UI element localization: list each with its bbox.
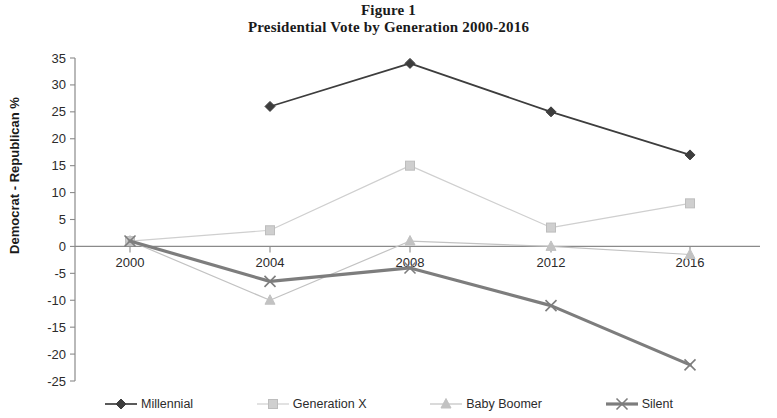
y-tick-label: 25 [52,104,66,119]
x-tick-label: 2012 [537,255,566,270]
series-line [270,63,690,155]
y-tick-label: 0 [59,239,66,254]
marker-square [547,223,556,232]
y-tick-label: 15 [52,158,66,173]
legend-item-silent[interactable]: Silent [605,397,673,411]
y-tick-label: -25 [47,374,66,389]
legend-label: Generation X [293,397,367,411]
legend-marker-triangle-icon [429,397,463,411]
chart-figure: Figure 1 Presidential Vote by Generation… [0,0,777,418]
marker-square [406,161,415,170]
series-generation-x [126,161,695,245]
marker-square [686,199,695,208]
x-tick-label: 2000 [116,255,145,270]
y-tick-label: -10 [47,293,66,308]
y-tick-label: 10 [52,185,66,200]
y-tick-label: -20 [47,347,66,362]
legend-item-generation-x[interactable]: Generation X [256,397,367,411]
marker-diamond [546,107,556,117]
marker-triangle [405,236,415,246]
y-tick-label: 30 [52,77,66,92]
marker-triangle [441,399,451,409]
legend-item-baby-boomer[interactable]: Baby Boomer [429,397,542,411]
y-tick-label: 5 [59,212,66,227]
legend-label: Millennial [141,397,193,411]
marker-diamond [265,101,275,111]
series-millennial [265,58,695,160]
marker-triangle [546,241,556,251]
y-tick-label: 35 [52,51,66,66]
chart-legend: MillennialGeneration XBaby BoomerSilent [0,392,777,416]
y-tick-label: -5 [54,266,66,281]
data-series-group [125,58,696,370]
axis-ticks: 35302520151050-5-10-15-20-25200020042008… [47,51,760,389]
legend-marker-square-icon [256,397,290,411]
marker-square [268,400,277,409]
plot-area: 35302520151050-5-10-15-20-25200020042008… [0,0,777,418]
marker-diamond [116,399,126,409]
marker-diamond [405,58,415,68]
legend-label: Silent [642,397,673,411]
marker-triangle [265,295,275,305]
legend-marker-diamond-icon [104,397,138,411]
y-tick-label: -15 [47,320,66,335]
y-tick-label: 20 [52,131,66,146]
series-line [130,166,690,241]
marker-diamond [685,150,695,160]
legend-marker-x-icon [605,397,639,411]
x-tick-label: 2004 [256,255,285,270]
legend-item-millennial[interactable]: Millennial [104,397,193,411]
legend-label: Baby Boomer [466,397,542,411]
marker-square [266,226,275,235]
